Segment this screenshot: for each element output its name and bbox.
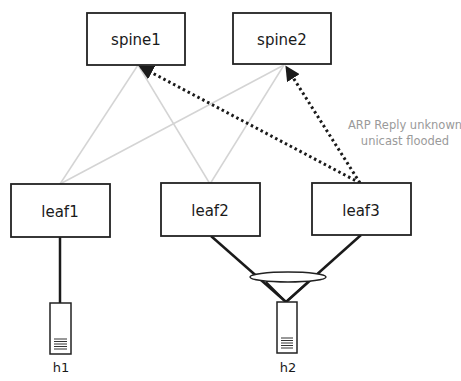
h1-label: h1 (53, 360, 70, 375)
annotation-line-1: ARP Reply unknown (348, 118, 461, 132)
leaf2-label: leaf2 (191, 202, 228, 220)
network-diagram: spine1 spine2 leaf1 leaf2 leaf3 h1 (0, 0, 461, 381)
flood-annotation: ARP Reply unknown unicast flooded (348, 118, 461, 148)
spine1-label: spine1 (111, 31, 161, 49)
spine2-switch[interactable]: spine2 (233, 13, 331, 64)
access-links (60, 235, 361, 303)
host-h1[interactable]: h1 (50, 303, 71, 375)
leaf3-switch[interactable]: leaf3 (312, 183, 411, 235)
annotation-line-2: unicast flooded (361, 134, 449, 148)
link-spine1-leaf1 (60, 65, 138, 184)
spine2-label: spine2 (257, 31, 307, 49)
leaf1-switch[interactable]: leaf1 (11, 184, 110, 237)
fabric-links (60, 65, 284, 184)
leaf2-switch[interactable]: leaf2 (161, 183, 260, 236)
link-spine2-leaf1 (60, 65, 284, 184)
leaf3-label: leaf3 (342, 202, 379, 220)
host-h2[interactable]: h2 (277, 302, 297, 375)
bond-inner-links (266, 282, 308, 302)
spine1-switch[interactable]: spine1 (87, 13, 185, 65)
h2-label: h2 (280, 360, 297, 375)
bond-ellipse (250, 272, 326, 282)
leaf1-label: leaf1 (41, 203, 78, 221)
